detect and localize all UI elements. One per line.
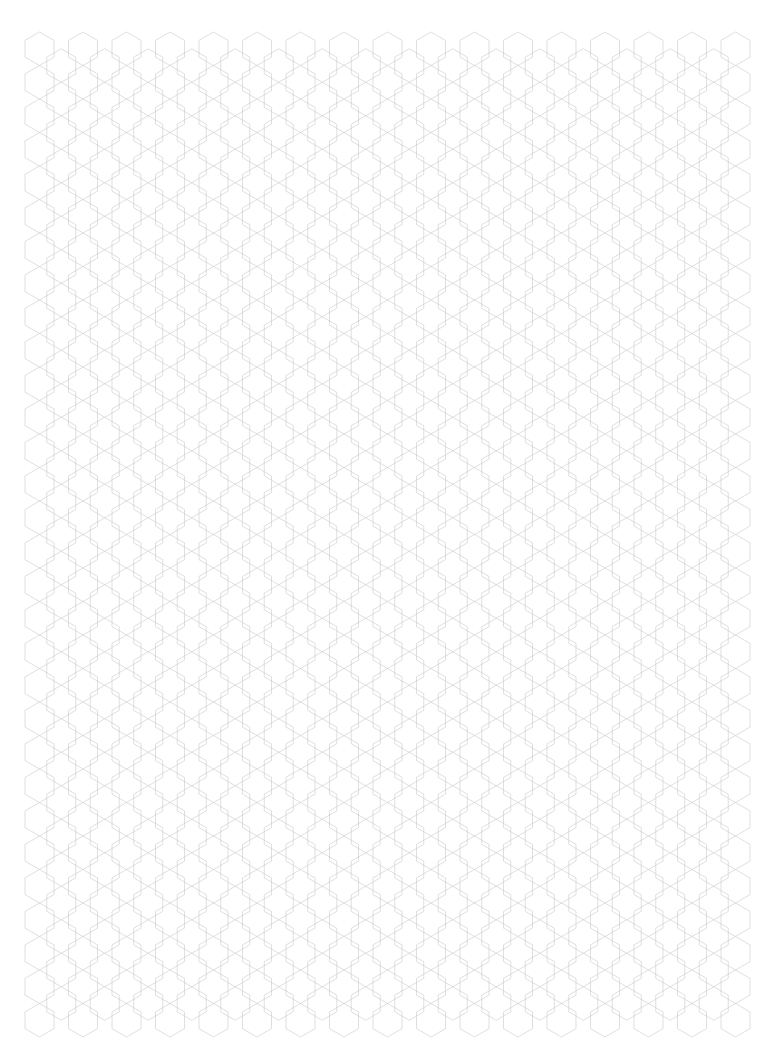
hexagon-cell: [264, 49, 293, 83]
hexagon-cell: [90, 618, 119, 652]
hexagon-cell: [286, 133, 315, 167]
hexagon-cell: [678, 769, 707, 803]
hexagon-cell: [656, 250, 685, 284]
hexagon-cell: [156, 32, 185, 66]
hexagon-cell: [678, 568, 707, 602]
hexagon-cell: [591, 501, 620, 535]
hexagon-cell: [699, 216, 728, 250]
hexagon-cell: [308, 652, 337, 686]
hexagon-cell: [395, 719, 424, 753]
hexagon-cell: [721, 803, 750, 837]
hexagon-cell: [721, 836, 750, 870]
hexagon-cell: [351, 350, 380, 384]
hexagon-cell: [177, 116, 206, 150]
hexagon-cell: [504, 903, 533, 937]
hexagon-cell: [47, 752, 76, 786]
hexagon-cell: [264, 786, 293, 820]
hexagon-cell: [264, 618, 293, 652]
hexagon-cell: [264, 451, 293, 485]
hexagon-cell: [264, 953, 293, 987]
hexagon-cell: [156, 635, 185, 669]
hexagon-cell: [308, 484, 337, 518]
hexagon-cell: [591, 937, 620, 971]
hexagon-cell: [656, 283, 685, 317]
hexagon-cell: [438, 518, 467, 552]
hexagon-cell: [221, 518, 250, 552]
hexagon-cell: [699, 886, 728, 920]
hexagon-cell: [460, 635, 489, 669]
hexagon-cell: [156, 602, 185, 636]
hexagon-cell: [699, 618, 728, 652]
hexagon-cell: [90, 451, 119, 485]
hexagon-cell: [721, 434, 750, 468]
hexagon-cell: [112, 300, 141, 334]
hexagon-cell: [678, 702, 707, 736]
hexagon-cell: [112, 669, 141, 703]
hexagon-cell: [373, 334, 402, 368]
hexagon-cell: [438, 987, 467, 1021]
hexagon-cell: [525, 384, 554, 418]
hexagon-cell: [308, 49, 337, 83]
hexagon-cell: [547, 367, 576, 401]
hexagon-cell: [221, 484, 250, 518]
hexagon-cell: [243, 468, 272, 502]
hexagon-cell: [264, 116, 293, 150]
hexagon-cell: [612, 886, 641, 920]
hexagon-cell: [504, 836, 533, 870]
hexagon-cell: [69, 133, 98, 167]
hexagon-cell: [721, 736, 750, 770]
hexagon-cell: [417, 32, 446, 66]
hexagon-cell: [177, 216, 206, 250]
hexagon-cell: [634, 267, 663, 301]
hexagon-cell: [395, 116, 424, 150]
hexagon-cell: [330, 1004, 359, 1038]
hexagon-cell: [634, 66, 663, 100]
hexagon-cell: [373, 133, 402, 167]
hexagon-cell: [482, 384, 511, 418]
hexagon-cell: [47, 216, 76, 250]
hexagon-cell: [90, 886, 119, 920]
hexagon-cell: [634, 1004, 663, 1038]
hexagon-cell: [47, 920, 76, 954]
hexagon-cell: [612, 953, 641, 987]
hexagon-cell: [395, 183, 424, 217]
hexagon-cell: [504, 367, 533, 401]
hexagon-cell: [612, 116, 641, 150]
hexagon-cell: [699, 183, 728, 217]
hexagon-cell: [699, 283, 728, 317]
hexagon-cell: [417, 468, 446, 502]
hexagon-cell: [264, 652, 293, 686]
hexagon-cell: [330, 937, 359, 971]
hexagon-cell: [504, 970, 533, 1004]
hexagon-cell: [591, 468, 620, 502]
hexagon-cell: [547, 635, 576, 669]
hexagon-cell: [525, 317, 554, 351]
hexagon-cell: [243, 702, 272, 736]
hexagon-cell: [504, 200, 533, 234]
hexagon-cell: [634, 133, 663, 167]
hexagon-cell: [90, 183, 119, 217]
hexagon-cell: [417, 736, 446, 770]
hexagon-cell: [112, 367, 141, 401]
hexagon-cell: [525, 685, 554, 719]
hexagon-cell: [504, 267, 533, 301]
hexagon-cell: [69, 635, 98, 669]
hexagon-cell: [69, 434, 98, 468]
hexagon-cell: [199, 434, 228, 468]
hexagon-cell: [591, 602, 620, 636]
hexagon-cell: [286, 501, 315, 535]
hexagon-cell: [699, 953, 728, 987]
hexagon-cell: [69, 99, 98, 133]
hexagon-cell: [47, 350, 76, 384]
hexagon-cell: [591, 635, 620, 669]
hexagon-cell: [47, 853, 76, 887]
hexagon-cell: [460, 937, 489, 971]
hexagon-cell: [591, 903, 620, 937]
hexagon-cell: [395, 551, 424, 585]
hexagon-cell: [656, 116, 685, 150]
hexagon-cell: [656, 886, 685, 920]
hexagon-cell: [330, 568, 359, 602]
hexagon-cell: [112, 501, 141, 535]
hexagon-cell: [177, 384, 206, 418]
hexagon-cell: [69, 66, 98, 100]
